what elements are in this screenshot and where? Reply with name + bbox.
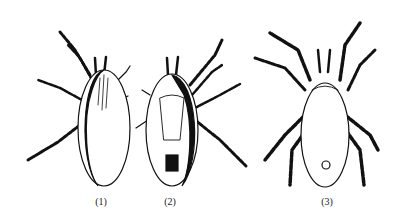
mite-illustration-figure: (1) (2) (3) xyxy=(0,0,399,224)
mite-1-drawing xyxy=(28,32,130,186)
panel-label-2: (2) xyxy=(164,196,176,207)
mite-3-drawing xyxy=(255,23,378,187)
panel-label-3: (3) xyxy=(321,196,333,207)
mite-2-drawing xyxy=(136,40,246,186)
mite-drawings xyxy=(0,0,399,224)
panel-label-1: (1) xyxy=(95,196,107,207)
